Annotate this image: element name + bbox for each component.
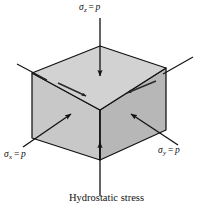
upper-right-tick (163, 57, 193, 74)
sigma-y-value: p (175, 145, 180, 155)
sigma-y-label: σy=p (158, 146, 180, 157)
sigma-y-equals: = (166, 145, 175, 155)
sigma-x-equals: = (12, 149, 21, 159)
sigma-z-label: σz=p (79, 3, 101, 14)
sigma-x-value: p (21, 149, 26, 159)
hydrostatic-stress-diagram (0, 0, 213, 217)
sigma-z-value: p (96, 2, 101, 12)
sigma-z-equals: = (87, 2, 96, 12)
sigma-x-label: σx=p (4, 150, 26, 161)
cube-body (32, 46, 166, 160)
figure-caption: Hydrostatic stress (0, 192, 213, 204)
hydrostatic-stress-figure: σz=p σx=p σy=p Hydrostatic stress (0, 0, 213, 217)
